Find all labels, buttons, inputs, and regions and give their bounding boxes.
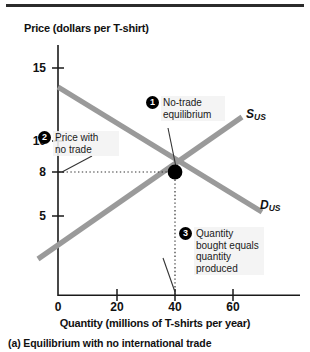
supply-curve-label-text: S [246, 107, 254, 121]
annotation-text-one: No-trade equilibrium [161, 96, 225, 121]
y-tick-label-8: 8 [20, 165, 46, 179]
x-tick-label-20: 20 [104, 300, 130, 314]
annotation-badge-one: 1 [146, 96, 159, 109]
y-tick-label-5: 5 [20, 209, 46, 223]
demand-curve-label-text: D [260, 198, 269, 212]
annotation-text-three: Quantity bought equals quantity produced [194, 227, 264, 275]
figure-caption: (a) Equilibrium with no international tr… [8, 337, 211, 349]
leader-line-annotation-one [168, 128, 176, 167]
supply-curve-label: SUS [246, 107, 266, 121]
y-tick-label-15: 15 [20, 61, 46, 75]
leader-line-annotation-two [62, 156, 92, 172]
x-tick-label-60: 60 [220, 300, 246, 314]
figure-equilibrium-no-trade: Price (dollars per T-shirt) 15 10 [0, 0, 310, 352]
x-tick-label-40: 40 [162, 300, 188, 314]
annotation-text-two: Price with no trade [53, 131, 119, 156]
equilibrium-point-marker [168, 165, 183, 180]
leader-line-annotation-three [163, 258, 175, 292]
supply-curve-label-subscript: US [254, 112, 266, 122]
x-tick-label-0: 0 [45, 300, 71, 314]
demand-curve-label: DUS [260, 198, 280, 212]
annotation-badge-three: 3 [179, 227, 192, 240]
x-axis-title: Quantity (millions of T-shirts per year) [0, 317, 310, 329]
annotation-badge-two: 2 [38, 131, 51, 144]
demand-curve-label-subscript: US [269, 203, 281, 213]
